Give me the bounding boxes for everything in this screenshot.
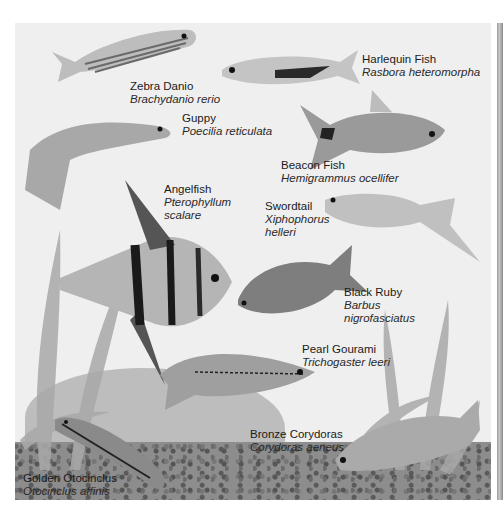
label-harlequin-fish: Harlequin Fish Rasbora heteromorpha: [362, 53, 480, 79]
label-pearl-gourami: Pearl Gourami Trichogaster leeri: [302, 343, 390, 369]
guppy-fish: [25, 123, 170, 210]
latin-name: Trichogaster leeri: [302, 356, 390, 369]
label-beacon-fish: Beacon Fish Hemigrammus ocellifer: [281, 159, 399, 185]
common-name: Golden Otocinclus: [23, 472, 117, 485]
pearl-gourami-fish: [160, 354, 315, 410]
latin-name: Otocinclus affinis: [23, 485, 117, 498]
latin-name-line-1: Pterophyllum: [164, 196, 231, 209]
latin-name-line-1: Xiphophorus: [265, 213, 330, 226]
label-black-ruby: Black Ruby Barbus nigrofasciatus: [344, 286, 415, 325]
latin-name: Hemigrammus ocellifer: [281, 172, 399, 185]
latin-name: Brachydanio rerio: [130, 93, 220, 106]
latin-name: Rasbora heteromorpha: [362, 66, 480, 79]
latin-name: Poecilia reticulata: [182, 125, 272, 138]
harlequin-fish: [222, 50, 360, 84]
common-name: Zebra Danio: [130, 80, 220, 93]
common-name: Bronze Corydoras: [250, 428, 344, 441]
latin-name-line-2: scalare: [164, 209, 231, 222]
label-bronze-corydoras: Bronze Corydoras Corydoras aeneus: [250, 428, 344, 454]
common-name: Harlequin Fish: [362, 53, 480, 66]
label-guppy: Guppy Poecilia reticulata: [182, 112, 272, 138]
zebra-danio-fish: [52, 30, 196, 82]
latin-name-line-1: Barbus: [344, 299, 415, 312]
common-name: Black Ruby: [344, 286, 415, 299]
common-name: Pearl Gourami: [302, 343, 390, 356]
common-name: Swordtail: [265, 200, 330, 213]
beacon-fish: [300, 90, 445, 170]
label-angelfish: Angelfish Pterophyllum scalare: [164, 183, 231, 222]
common-name: Beacon Fish: [281, 159, 399, 172]
label-zebra-danio: Zebra Danio Brachydanio rerio: [130, 80, 220, 106]
latin-name-line-2: nigrofasciatus: [344, 312, 415, 325]
latin-name-line-2: helleri: [265, 226, 330, 239]
common-name: Angelfish: [164, 183, 231, 196]
label-golden-otocinclus: Golden Otocinclus Otocinclus affinis: [23, 472, 117, 498]
latin-name: Corydoras aeneus: [250, 441, 344, 454]
label-swordtail: Swordtail Xiphophorus helleri: [265, 200, 330, 239]
common-name: Guppy: [182, 112, 272, 125]
